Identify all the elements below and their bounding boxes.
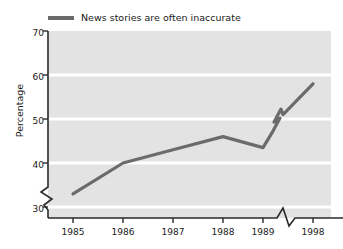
plot-background	[48, 31, 331, 218]
line-chart: News stories are often inaccurate Percen…	[0, 0, 343, 249]
chart-canvas	[0, 0, 343, 249]
